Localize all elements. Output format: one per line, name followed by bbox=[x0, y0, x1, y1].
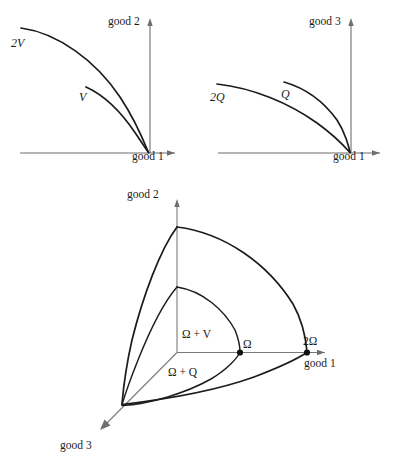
good3-axis-label-3d: good 3 bbox=[60, 439, 92, 452]
good1-axis-arrow-left bbox=[167, 150, 175, 156]
good2-axis-label-3d: good 2 bbox=[127, 188, 159, 201]
curve-label-2q: 2Q bbox=[210, 90, 225, 104]
top-right-panel: good 1 good 3 2Q Q bbox=[210, 15, 380, 163]
curve-v bbox=[86, 87, 149, 153]
figure-root: good 1 good 2 2V V good 1 good 3 2Q Q bbox=[0, 0, 403, 460]
surface-label-omega-plus-v: Ω + V bbox=[182, 328, 212, 340]
good1-axis-label-3d: good 1 bbox=[304, 357, 336, 370]
good2-axis-label-left: good 2 bbox=[108, 15, 140, 28]
point-omega bbox=[237, 349, 243, 355]
curve-label-q: Q bbox=[281, 87, 290, 101]
good3-axis-arrow-right bbox=[348, 18, 353, 26]
good1-axis-label-left: good 1 bbox=[132, 150, 164, 163]
point-2-omega bbox=[304, 349, 310, 355]
good1-axis-label-right: good 1 bbox=[333, 150, 365, 163]
good1-axis-arrow-right bbox=[372, 150, 380, 156]
point-label-omega: Ω bbox=[243, 338, 252, 350]
good1-axis-arrow-3d bbox=[317, 350, 325, 356]
surface-label-omega-plus-q: Ω + Q bbox=[168, 366, 198, 378]
point-label-2-omega: 2Ω bbox=[303, 335, 317, 347]
surface-inner-edge-top-right bbox=[177, 287, 240, 352]
curve-label-2v: 2V bbox=[11, 36, 26, 50]
top-left-panel: good 1 good 2 2V V bbox=[11, 15, 175, 163]
good3-axis-label-right: good 3 bbox=[309, 15, 341, 28]
good2-axis-arrow-3d bbox=[174, 199, 179, 207]
curve-label-v: V bbox=[79, 90, 88, 104]
surface-outer-edge-bottom bbox=[122, 353, 307, 405]
good2-axis-arrow-left bbox=[147, 18, 152, 26]
bottom-3d-panel: good 2 good 1 good 3 Ω + V Ω + Q Ω 2Ω bbox=[60, 188, 336, 452]
good3-axis-3d bbox=[103, 353, 177, 428]
economics-figure-svg: good 1 good 2 2V V good 1 good 3 2Q Q bbox=[0, 0, 403, 460]
surface-inner-edge-bottom bbox=[122, 353, 240, 406]
